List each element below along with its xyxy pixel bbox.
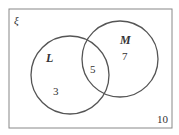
venn-diagram: ξ L M 3 7 5 10 <box>0 0 179 135</box>
intersection-value: 5 <box>90 63 96 75</box>
outside-value: 10 <box>157 113 169 125</box>
l-only-value: 3 <box>53 85 59 97</box>
set-m-label: M <box>119 33 131 47</box>
universe-symbol: ξ <box>14 14 19 27</box>
set-l-label: L <box>45 51 53 65</box>
set-l-circle <box>31 36 109 114</box>
m-only-value: 7 <box>122 50 128 62</box>
